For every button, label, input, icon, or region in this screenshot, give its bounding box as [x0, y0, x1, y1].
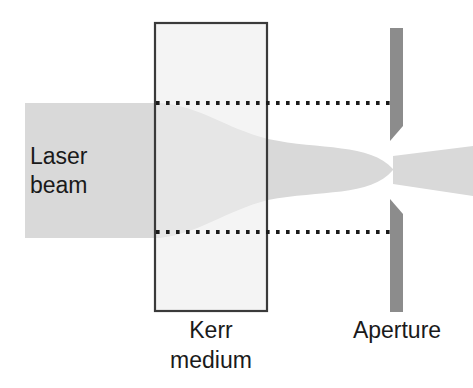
laser-beam-label-line2: beam	[30, 172, 88, 198]
kerr-medium-label-line1: Kerr	[189, 317, 233, 343]
aperture-lower-blade	[390, 199, 403, 312]
laser-beam-label-line1: Laser	[30, 143, 88, 169]
kerr-medium-block	[155, 23, 267, 311]
aperture-upper-blade	[390, 28, 403, 141]
kerr-effect-diagram: Laser beam Kerr medium Aperture	[0, 0, 473, 388]
aperture-label: Aperture	[353, 317, 441, 343]
diagram-canvas: Laser beam Kerr medium Aperture	[0, 0, 473, 388]
laser-beam-transmitted	[393, 146, 473, 196]
kerr-medium-label-line2: medium	[170, 347, 252, 373]
